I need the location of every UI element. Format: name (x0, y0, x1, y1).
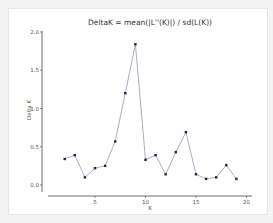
x-tick-label: 20 (243, 199, 250, 205)
data-point-marker (205, 178, 207, 180)
data-point-marker (185, 131, 187, 133)
data-point-marker (215, 176, 217, 178)
data-point-marker (195, 173, 197, 175)
data-point-marker (124, 92, 126, 94)
x-ticks: 5101520 (93, 196, 250, 205)
data-point-marker (74, 154, 76, 156)
chart-title: DeltaK = mean(|L''(K)|) / sd(L(K)) (88, 18, 212, 27)
data-point-marker (165, 173, 167, 175)
data-point-marker (104, 165, 106, 167)
x-tick-label: 5 (93, 199, 97, 205)
y-tick-label: 2.0 (30, 29, 39, 35)
data-point-marker (225, 164, 227, 166)
chart-svg: DeltaK = mean(|L''(K)|) / sd(L(K)) 0.00.… (0, 0, 273, 223)
data-point-marker (84, 176, 86, 178)
data-markers (64, 43, 238, 180)
data-point-marker (114, 140, 116, 142)
y-tick-label: 1.5 (30, 67, 39, 73)
data-point-marker (154, 154, 156, 156)
data-point-marker (94, 167, 96, 169)
data-point-marker (175, 151, 177, 153)
y-axis-label: Delta K (26, 100, 32, 120)
y-ticks: 0.00.51.01.52.0 (30, 29, 42, 188)
y-tick-label: 0.0 (30, 182, 39, 188)
data-point-marker (134, 43, 136, 45)
y-tick-label: 0.5 (30, 144, 39, 150)
x-tick-label: 15 (193, 199, 200, 205)
data-point-marker (64, 158, 66, 160)
delta-k-line (65, 44, 237, 179)
data-point-marker (235, 178, 237, 180)
data-point-marker (144, 159, 146, 161)
x-axis-label: K (148, 205, 152, 211)
